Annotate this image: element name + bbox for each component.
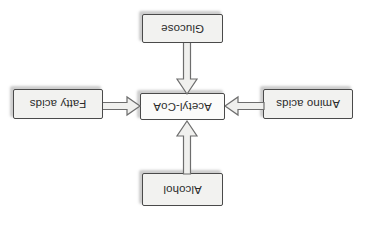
arrow-glucose-to-acetyl-coa	[175, 42, 199, 94]
arrow-amino-acids-to-acetyl-coa	[224, 96, 264, 116]
node-acetyl-coa-label: Acetyl-CoA	[153, 100, 212, 113]
diagram-canvas: Alcohol Amino acids Acetyl-CoA Fatty aci…	[0, 0, 375, 229]
node-glucose-label: Glucose	[161, 22, 204, 35]
node-glucose[interactable]: Glucose	[142, 14, 223, 43]
node-alcohol-label: Alcohol	[163, 183, 201, 196]
arrow-alcohol-to-acetyl-coa	[175, 120, 199, 174]
node-fatty-acids-label: Fatty acids	[30, 98, 87, 111]
node-amino-acids-label: Amino acids	[276, 98, 340, 111]
arrow-fatty-acids-to-acetyl-coa	[101, 96, 141, 116]
node-acetyl-coa[interactable]: Acetyl-CoA	[140, 93, 225, 120]
node-fatty-acids[interactable]: Fatty acids	[13, 89, 103, 119]
node-alcohol[interactable]: Alcohol	[142, 173, 223, 206]
node-amino-acids[interactable]: Amino acids	[263, 89, 353, 119]
